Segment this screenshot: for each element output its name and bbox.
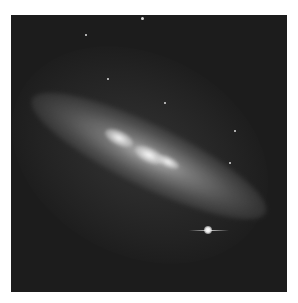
star — [164, 102, 166, 104]
star — [234, 130, 236, 132]
star — [229, 162, 231, 164]
bright-star — [204, 226, 212, 234]
galaxy-photo — [11, 15, 287, 292]
star — [85, 34, 87, 36]
star — [107, 78, 109, 80]
star — [141, 17, 144, 20]
